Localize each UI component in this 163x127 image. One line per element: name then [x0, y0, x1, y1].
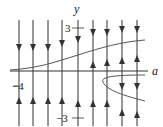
arrow-down-icon	[104, 29, 110, 36]
arrow-down-icon	[75, 36, 81, 43]
arrow-up-icon	[90, 100, 96, 107]
phase-lines	[19, 20, 137, 126]
a-tick-label-neg4: −4	[12, 80, 24, 92]
arrow-up-icon	[30, 97, 36, 104]
arrow-up-icon	[134, 55, 140, 62]
arrow-up-icon	[75, 100, 81, 107]
y-tick-label-3: 3	[65, 22, 71, 34]
arrow-down-icon	[59, 40, 65, 47]
arrow-down-icon	[90, 29, 96, 36]
arrow-up-icon	[45, 97, 51, 104]
y-tick-label-neg3: −3	[56, 112, 68, 124]
arrow-down-icon	[30, 44, 36, 51]
y-axis-label: y	[73, 2, 80, 16]
arrow-up-icon	[104, 100, 110, 107]
arrow-down-icon	[134, 83, 140, 90]
arrow-up-icon	[59, 97, 65, 104]
arrow-up-icon	[119, 57, 125, 64]
parabola-curve	[103, 75, 145, 101]
arrow-up-icon	[119, 109, 125, 116]
arrow-down-icon	[45, 44, 51, 51]
arrow-down-icon	[16, 44, 22, 51]
a-axis-label: a	[152, 64, 158, 78]
bifurcation-diagram: y a 3 −3 −4	[0, 0, 163, 127]
arrow-down-icon	[119, 83, 125, 90]
arrow-up-icon	[134, 111, 140, 118]
arrow-down-icon	[134, 26, 140, 33]
arrow-down-icon	[119, 26, 125, 33]
arrow-up-icon	[104, 59, 110, 66]
arrow-up-icon	[90, 61, 96, 68]
arrow-up-icon	[16, 97, 22, 104]
